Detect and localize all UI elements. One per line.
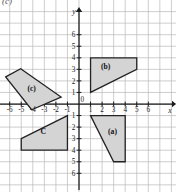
svg-text:-1: -1 [64, 106, 70, 114]
svg-text:5: 5 [72, 43, 76, 51]
svg-text:-3: -3 [41, 106, 47, 114]
svg-text:4: 4 [123, 106, 127, 114]
svg-text:2: 2 [72, 124, 76, 132]
svg-text:-2: -2 [53, 106, 59, 114]
svg-text:x: x [167, 106, 172, 115]
svg-text:-6: -6 [7, 106, 13, 114]
svg-text:(a): (a) [108, 127, 117, 136]
svg-text:5: 5 [72, 158, 76, 166]
svg-text:2: 2 [72, 78, 76, 86]
coordinate-grid-svg: -6-5-4-3-2-10123456123456123456 xy (a)(b… [0, 0, 176, 192]
svg-text:(c): (c) [27, 84, 36, 93]
svg-text:-4: -4 [30, 106, 36, 114]
svg-text:3: 3 [72, 135, 76, 143]
svg-text:0: 0 [81, 96, 85, 104]
svg-text:3: 3 [72, 66, 76, 74]
svg-text:C: C [40, 127, 45, 136]
svg-text:1: 1 [89, 106, 93, 114]
svg-text:2: 2 [100, 106, 104, 114]
svg-text:6: 6 [72, 170, 76, 178]
svg-text:1: 1 [72, 89, 76, 97]
svg-text:(b): (b) [101, 62, 111, 71]
svg-text:4: 4 [72, 54, 76, 62]
svg-text:6: 6 [72, 31, 76, 39]
coordinate-plane-figure: (c) -6-5-4-3-2-10123456123456123456 xy (… [0, 0, 176, 192]
svg-text:6: 6 [147, 106, 151, 114]
svg-text:1: 1 [72, 112, 76, 120]
svg-text:3: 3 [112, 106, 116, 114]
svg-text:5: 5 [135, 106, 139, 114]
svg-text:4: 4 [72, 147, 76, 155]
svg-text:y: y [71, 7, 76, 16]
svg-text:-5: -5 [18, 106, 24, 114]
